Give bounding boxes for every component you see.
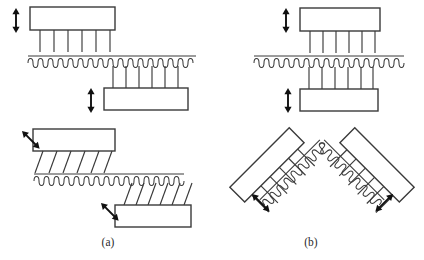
panel-label-a: (a)	[102, 236, 115, 249]
motion-arrow	[12, 8, 19, 33]
bristle-pack-block	[230, 128, 304, 202]
bristle-pack-block	[340, 128, 414, 202]
panel-a-inclined-upper-block	[19, 128, 115, 173]
motion-arrow-diagonal	[249, 191, 272, 214]
bristle-group	[40, 30, 110, 52]
bristle-pack-block	[300, 8, 380, 31]
bristle-pack-block	[115, 205, 191, 227]
panel-b-lower-block	[284, 67, 378, 113]
bristle-group	[113, 66, 178, 88]
bristle-pack-block	[300, 89, 378, 111]
figure-container: (a)	[0, 0, 424, 260]
bristle-pack-block	[104, 88, 188, 110]
inclined-bristle-group	[35, 151, 112, 173]
panel-a-lower-block	[87, 66, 188, 113]
panel-b: (b)	[230, 8, 414, 249]
panel-b-vee-left-arm	[230, 128, 321, 219]
diagram-svg: (a)	[0, 0, 424, 260]
coil-surface	[28, 56, 196, 68]
bristle-pack-block	[33, 129, 115, 151]
inclined-bristle-group	[124, 183, 192, 205]
motion-arrow	[282, 8, 289, 33]
panel-a-inclined-lower-block	[98, 183, 192, 227]
bristle-group	[309, 67, 373, 89]
panel-b-vee-right-arm	[323, 128, 414, 219]
motion-arrow	[87, 88, 94, 113]
bristle-pack-block	[30, 7, 115, 30]
coil-surface	[254, 56, 404, 68]
panel-label-b: (b)	[304, 236, 318, 249]
motion-arrow	[284, 88, 291, 113]
coil-surface	[34, 174, 184, 186]
panel-a: (a)	[12, 7, 196, 249]
panel-b-upper-block	[282, 8, 380, 53]
panel-a-upper-block	[12, 7, 115, 52]
bristle-group	[310, 31, 375, 53]
